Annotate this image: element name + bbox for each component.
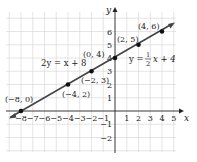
point-neg4-2 xyxy=(66,82,71,87)
point-neg8-0 xyxy=(19,109,24,114)
svg-text:−4: −4 xyxy=(62,114,74,123)
svg-text:(−8, 0): (−8, 0) xyxy=(5,95,33,104)
svg-text:(2, 5): (2, 5) xyxy=(117,35,139,44)
svg-text:2: 2 xyxy=(136,114,141,123)
svg-text:−8: −8 xyxy=(15,114,27,123)
svg-text:−6: −6 xyxy=(39,114,51,123)
graph: x y −8 −7 −6 −5 −4 −3 −2 −1 1 2 3 4 5 6 … xyxy=(0,0,197,162)
equation-right-den: 2 xyxy=(146,60,150,68)
y-axis-label: y xyxy=(105,5,112,15)
equation-left: 2y = x + 8 xyxy=(41,58,86,68)
point-4-6 xyxy=(160,29,165,34)
svg-text:−2: −2 xyxy=(86,114,98,123)
equation-right-suffix: x + 4 xyxy=(153,54,176,64)
equation-right-num: 1 xyxy=(146,51,150,59)
x-tick-labels: −8 −7 −6 −5 −4 −3 −2 −1 1 2 3 4 5 xyxy=(15,114,176,123)
svg-text:(4, 6): (4, 6) xyxy=(138,22,160,31)
svg-text:3: 3 xyxy=(107,67,112,76)
svg-text:−1: −1 xyxy=(100,120,112,129)
svg-text:1: 1 xyxy=(107,94,112,103)
point-neg2-3 xyxy=(89,69,94,74)
equation-right-prefix: y = xyxy=(128,54,144,64)
svg-text:−3: −3 xyxy=(74,114,86,123)
svg-text:(−4, 2): (−4, 2) xyxy=(62,90,90,99)
svg-text:−5: −5 xyxy=(50,114,62,123)
svg-text:−2: −2 xyxy=(100,134,112,143)
svg-text:(−2, 3): (−2, 3) xyxy=(81,76,109,85)
svg-text:−7: −7 xyxy=(27,114,39,123)
svg-text:1: 1 xyxy=(124,114,129,123)
svg-text:4: 4 xyxy=(159,114,164,123)
svg-text:5: 5 xyxy=(107,41,112,50)
y-axis-arrow-icon xyxy=(113,7,118,12)
svg-text:3: 3 xyxy=(148,114,153,123)
svg-text:5: 5 xyxy=(171,114,176,123)
svg-text:6: 6 xyxy=(107,28,112,37)
x-axis-label: x xyxy=(184,113,189,123)
point-0-4 xyxy=(113,56,118,61)
